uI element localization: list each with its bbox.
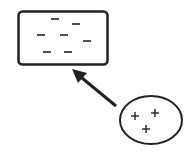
charge-diagram bbox=[0, 0, 193, 157]
negative-region bbox=[19, 12, 108, 65]
positive-object bbox=[120, 96, 182, 144]
arrow-shaft bbox=[82, 78, 116, 106]
arrow bbox=[72, 69, 116, 106]
positive-object-ellipse bbox=[120, 96, 182, 144]
negative-region-box bbox=[19, 12, 108, 65]
